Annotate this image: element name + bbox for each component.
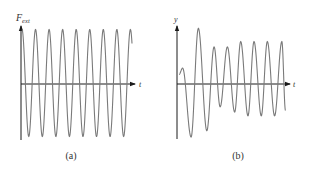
panel-a-y-label: Fext: [15, 12, 30, 24]
panel-b-caption: (b): [232, 150, 244, 162]
panel-a-t-label: t: [139, 80, 142, 89]
panel-b-t-label: t: [293, 80, 296, 89]
panel-a-force-curve: [22, 30, 132, 137]
figure: Fext t (a) y t (b): [0, 0, 309, 173]
panel-b-y-label: y: [173, 15, 178, 24]
panel-a: Fext t (a): [15, 12, 142, 162]
panel-a-caption: (a): [65, 150, 76, 162]
panel-b-response-curve: [179, 28, 285, 137]
panel-b: y t (b): [173, 15, 296, 162]
